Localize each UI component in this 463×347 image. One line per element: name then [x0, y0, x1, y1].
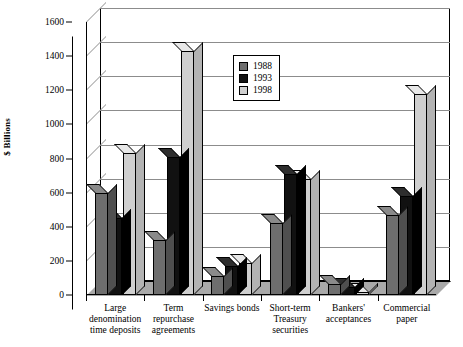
y-axis-tick — [66, 158, 72, 159]
bar-side — [166, 231, 175, 295]
bar-1988-5 — [328, 284, 341, 295]
bar-face — [270, 223, 283, 295]
bar-face — [386, 215, 399, 295]
y-axis-tick — [66, 124, 72, 125]
legend-swatch-1998 — [239, 86, 248, 95]
legend-label-1993: 1993 — [253, 73, 272, 83]
y-axis-tick-label: 800 — [20, 154, 64, 164]
x-axis-tick — [319, 295, 320, 301]
y-axis-tick-label: 400 — [20, 222, 64, 232]
x-axis-tick — [203, 295, 204, 301]
bar-side — [180, 148, 189, 295]
plot-side-wall — [72, 22, 87, 310]
bar-side — [413, 187, 422, 295]
bar-face — [356, 292, 369, 295]
y-axis-tick — [66, 56, 72, 57]
bar-1988-4 — [270, 223, 283, 295]
y-axis-tick-label: 1400 — [20, 51, 64, 61]
x-axis-tick — [261, 295, 262, 301]
y-axis-tick — [66, 226, 72, 227]
bar-face — [328, 284, 341, 295]
y-axis-tick-label: 0 — [20, 290, 64, 300]
legend-swatch-1993 — [239, 74, 248, 83]
y-axis-tick-label: 1000 — [20, 119, 64, 129]
bar-side — [399, 206, 408, 295]
legend-item: 1993 — [239, 72, 272, 84]
bar-side — [311, 170, 320, 295]
y-axis-tick — [66, 260, 72, 261]
gridline — [100, 8, 450, 9]
gridline — [100, 179, 450, 180]
legend-label-1988: 1988 — [253, 61, 272, 71]
gridline — [100, 145, 450, 146]
bar-1988-3 — [211, 276, 224, 295]
y-axis-tick — [66, 22, 72, 23]
legend-item: 1998 — [239, 84, 272, 96]
bar-1988-1 — [95, 193, 108, 295]
legend-label-1998: 1998 — [253, 85, 272, 95]
bar-1988-6 — [386, 215, 399, 295]
bar-side — [297, 165, 306, 295]
bar-face — [95, 193, 108, 295]
bar-1988-2 — [153, 240, 166, 295]
bar-side — [194, 42, 203, 295]
bar-side — [283, 214, 292, 295]
y-axis-tick — [66, 295, 72, 296]
gridline — [100, 110, 450, 111]
y-axis-tick-label: 600 — [20, 188, 64, 198]
x-axis-tick — [86, 295, 87, 301]
y-axis-title: $ Billions — [2, 118, 18, 156]
y-axis-tick-label: 1200 — [20, 85, 64, 95]
bar-side — [108, 184, 117, 295]
gridline — [100, 42, 450, 43]
legend-swatch-1988 — [239, 62, 248, 71]
y-axis-line — [86, 22, 87, 295]
y-axis-tick — [66, 192, 72, 193]
y-axis-tick — [66, 90, 72, 91]
bar-face — [153, 240, 166, 295]
y-axis-tick-label: 1600 — [20, 17, 64, 27]
legend: 1988 1993 1998 — [233, 55, 280, 101]
category-label: Commercial paper — [363, 303, 451, 325]
bar-side — [122, 209, 131, 295]
x-axis-tick — [378, 295, 379, 301]
x-axis-tick — [144, 295, 145, 301]
legend-item: 1988 — [239, 60, 272, 72]
bar-1998-5 — [356, 292, 369, 295]
chart-container: $ Billions 02004006008001000120014001600… — [0, 0, 463, 347]
bar-face — [211, 276, 224, 295]
bar-side — [427, 85, 436, 295]
bar-side — [136, 144, 145, 295]
y-axis-tick-label: 200 — [20, 256, 64, 266]
